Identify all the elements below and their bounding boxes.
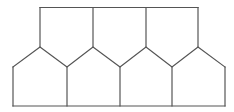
bottom-row-edges bbox=[13, 67, 225, 106]
pentagon-tiling-diagram bbox=[0, 0, 234, 112]
zigzag-edge bbox=[13, 47, 225, 67]
top-row-edges bbox=[40, 8, 198, 48]
tiling-svg bbox=[0, 0, 234, 112]
